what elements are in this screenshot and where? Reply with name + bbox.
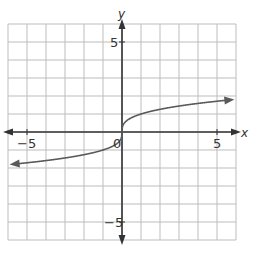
curve-arrow-left-icon xyxy=(10,160,20,168)
y-axis-label: y xyxy=(117,7,126,21)
origin-label: 0 xyxy=(113,136,121,151)
x-tick-label-pos5: 5 xyxy=(213,136,221,151)
y-tick-label-neg5: −5 xyxy=(104,215,123,230)
x-tick-label-neg5: −5 xyxy=(17,136,36,151)
x-axis-label: x xyxy=(240,126,249,140)
y-tick-label-pos5: 5 xyxy=(110,35,118,50)
graph-plot: y x −5 5 0 5 −5 xyxy=(0,0,256,254)
curve-arrow-right-icon xyxy=(224,96,234,104)
